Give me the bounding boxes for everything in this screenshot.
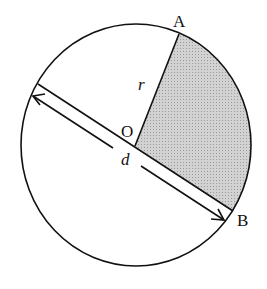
label-o: O	[121, 122, 133, 141]
circle-diagram: A B O r d	[0, 0, 267, 289]
label-a: A	[173, 12, 186, 31]
label-r: r	[138, 75, 145, 94]
dimension-arrow-left	[33, 96, 113, 148]
label-d: d	[121, 150, 130, 169]
label-b: B	[237, 211, 248, 230]
